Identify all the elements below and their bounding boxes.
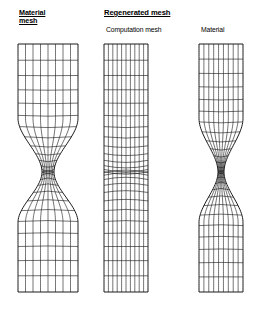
label-material-right: Material bbox=[201, 26, 224, 34]
label-material-mesh-line2: mesh bbox=[19, 17, 45, 25]
label-computation-mesh: Computation mesh bbox=[106, 26, 161, 34]
label-material-mesh: Material mesh bbox=[19, 9, 45, 25]
label-regenerated-mesh: Regenerated mesh bbox=[104, 9, 170, 18]
figure-background bbox=[0, 0, 258, 312]
necking-mesh-figure bbox=[0, 0, 258, 312]
